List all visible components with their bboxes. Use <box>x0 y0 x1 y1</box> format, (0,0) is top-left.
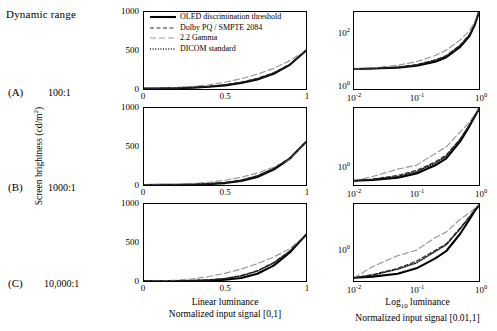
figure-canvas: Dynamic range (A) 100:1 (B) 1000:1 (C) 1… <box>0 0 497 331</box>
row-ratio-c: 10,000:1 <box>44 278 79 289</box>
xtick-log-a-1e0: 100 <box>470 91 492 103</box>
xtick-log-a-1e0-exp: 0 <box>484 91 487 98</box>
row-ratio-a: 100:1 <box>48 87 71 98</box>
xtick-log-b-1e-1-exp: -1 <box>419 187 424 194</box>
legend-swatch-dotted-icon <box>150 45 176 53</box>
ytick-c-1000: 1000 <box>109 198 139 208</box>
row-letter-b: (B) <box>8 181 23 193</box>
xtick-log-b-1e-2-exp: -2 <box>356 187 361 194</box>
ytick-log-a-1e2-exp: 2 <box>347 26 350 33</box>
xtick-log-b-1e0: 100 <box>470 187 492 199</box>
column-caption-log-word: luminance <box>408 297 450 307</box>
y-axis-caption-text: Screen brightness (cd/m <box>34 114 44 206</box>
xtick-log-c-1e-2: 10-2 <box>343 283 365 295</box>
ytick-log-b-1e0-exp: 0 <box>347 160 350 167</box>
column-caption-log-line1: Log10 luminance <box>340 296 495 312</box>
xtick-log-a-1e-2: 10-2 <box>343 91 365 103</box>
legend-item-1: Dolby PQ / SMPTE 2084 <box>150 23 322 33</box>
ytick-b-1000: 1000 <box>109 102 139 112</box>
xtick-log-c-1e-1-exp: -1 <box>419 283 424 290</box>
xtick-log-c-1e-2-exp: -2 <box>356 283 361 290</box>
row-letter-a: (A) <box>8 86 23 98</box>
xtick-log-a-1e-1: 10-1 <box>406 91 428 103</box>
xtick-c-0.5: 0.5 <box>215 283 235 293</box>
column-caption-log-log: Log <box>385 297 400 307</box>
row-ratio-b: 1000:1 <box>48 182 76 193</box>
panel-c-linear <box>143 203 307 282</box>
column-caption-linear-line1: Linear luminance <box>143 296 307 308</box>
panel-a-log <box>353 11 480 90</box>
column-caption-log-subscript: 10 <box>401 302 408 310</box>
column-caption-linear-line2: Normalized input signal [0,1] <box>143 308 307 320</box>
legend-item-2: 2.2 Gamma <box>150 33 322 43</box>
legend-swatch-dashed-icon <box>150 24 176 32</box>
ytick-c-500: 500 <box>109 237 139 247</box>
xtick-log-b-1e-2: 10-2 <box>343 187 365 199</box>
y-axis-caption-tail: ) <box>34 107 44 110</box>
xtick-log-b-1e0-exp: 0 <box>484 187 487 194</box>
xtick-b-0: 0 <box>133 187 153 197</box>
ytick-a-500: 500 <box>109 45 139 55</box>
xtick-log-a-1e-2-exp: -2 <box>356 91 361 98</box>
legend-label-1: Dolby PQ / SMPTE 2084 <box>180 24 262 32</box>
panel-b-linear <box>143 107 307 186</box>
y-axis-caption: Screen brightness (cd/m2) <box>32 56 44 256</box>
legend-label-0: OLED discrimination threshold <box>180 13 281 21</box>
xtick-a-1: 1 <box>297 91 317 101</box>
ytick-log-a-1e0: 100 <box>322 79 350 91</box>
xtick-log-c-1e0-exp: 0 <box>484 283 487 290</box>
dynamic-range-title: Dynamic range <box>6 8 76 20</box>
xtick-a-0: 0 <box>133 91 153 101</box>
xtick-c-0: 0 <box>133 283 153 293</box>
y-axis-caption-exponent: 2 <box>32 110 40 114</box>
column-caption-linear: Linear luminance Normalized input signal… <box>143 296 307 320</box>
ytick-a-1000: 1000 <box>109 6 139 16</box>
panel-b-log <box>353 107 480 186</box>
legend: OLED discrimination thresholdDolby PQ / … <box>150 12 322 52</box>
ytick-log-c-1e0-exp: 0 <box>347 243 350 250</box>
ytick-log-b-1e0: 100 <box>322 160 350 172</box>
panel-c-log <box>353 203 480 282</box>
column-caption-log-line2: Normalized input signal [0.01,1] <box>340 312 495 324</box>
xtick-log-a-1e-1-exp: -1 <box>419 91 424 98</box>
legend-swatch-longdash-icon <box>150 34 176 42</box>
ytick-b-500: 500 <box>109 141 139 151</box>
xtick-log-b-1e-1: 10-1 <box>406 187 428 199</box>
xtick-log-c-1e-1: 10-1 <box>406 283 428 295</box>
legend-swatch-solid-icon <box>150 13 176 21</box>
xtick-c-1: 1 <box>297 283 317 293</box>
legend-item-3: DICOM standard <box>150 44 322 54</box>
ytick-log-c-1e0: 100 <box>322 243 350 255</box>
legend-item-0: OLED discrimination threshold <box>150 12 322 22</box>
xtick-b-0.5: 0.5 <box>215 187 235 197</box>
ytick-log-a-1e2: 102 <box>322 26 350 38</box>
ytick-log-a-1e0-exp: 0 <box>347 79 350 86</box>
column-caption-log: Log10 luminance Normalized input signal … <box>340 296 495 324</box>
row-letter-c: (C) <box>8 277 23 289</box>
xtick-a-0.5: 0.5 <box>215 91 235 101</box>
xtick-log-c-1e0: 100 <box>470 283 492 295</box>
legend-label-2: 2.2 Gamma <box>180 34 217 42</box>
legend-label-3: DICOM standard <box>180 45 236 53</box>
xtick-b-1: 1 <box>297 187 317 197</box>
